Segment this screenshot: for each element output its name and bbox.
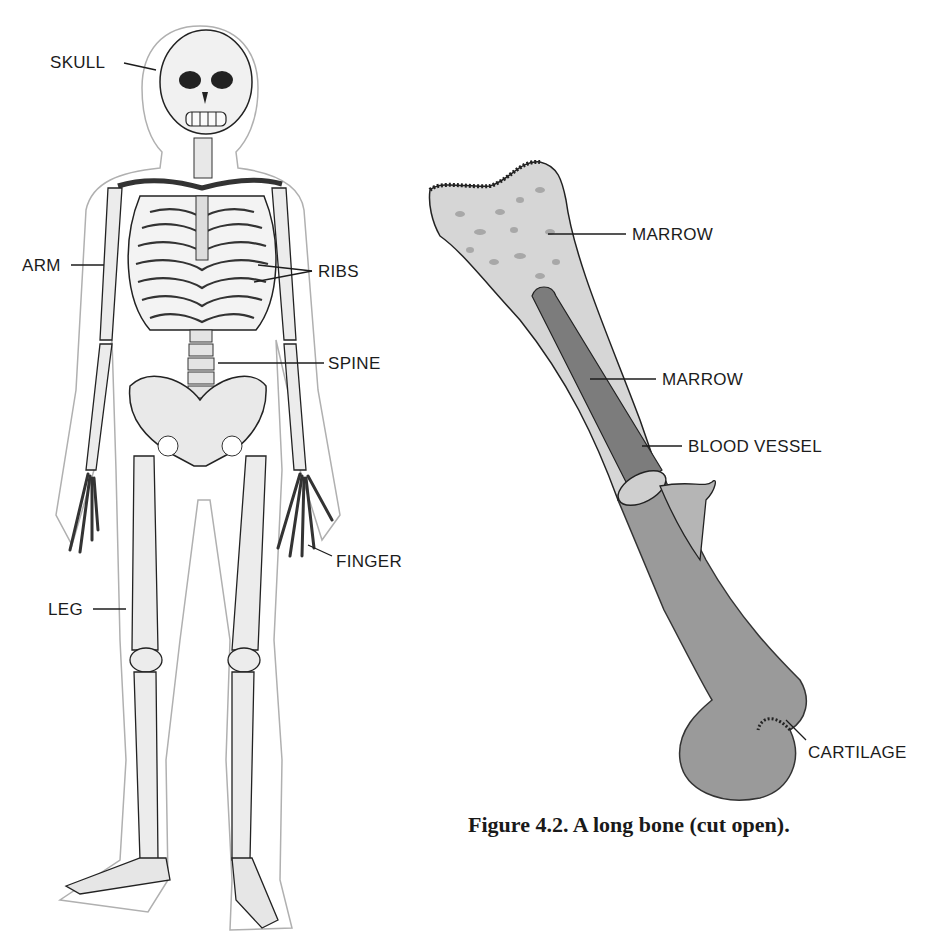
label-ribs: RIBS [318,262,359,282]
illustrations [0,0,947,943]
label-skull: SKULL [50,53,105,73]
bone-shaft [618,478,806,800]
skeleton-illustration [56,26,340,930]
label-marrow-middle: MARROW [662,370,743,390]
label-blood-vessel: BLOOD VESSEL [688,437,822,457]
label-cartilage: CARTILAGE [808,743,907,763]
label-finger: FINGER [336,552,402,572]
label-spine: SPINE [328,354,381,374]
label-leg: LEG [48,600,83,620]
label-marrow-top: MARROW [632,225,713,245]
label-arm: ARM [22,256,61,276]
figure-caption: Figure 4.2. A long bone (cut open). [468,812,790,838]
figure-canvas: SKULL ARM RIBS SPINE FINGER LEG MARROW M… [0,0,947,943]
long-bone-illustration [429,162,806,800]
